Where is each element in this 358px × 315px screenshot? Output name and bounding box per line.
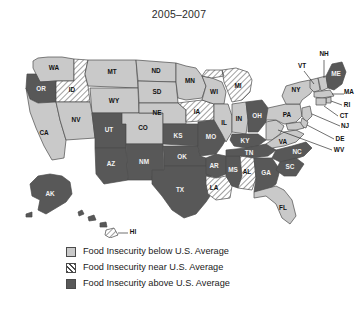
legend-label-above: Food Insecurity above U.S. Average <box>83 279 230 288</box>
state-CT[interactable] <box>316 98 326 105</box>
state-label-NV: NV <box>72 116 82 123</box>
state-RI[interactable] <box>326 97 331 103</box>
legend-swatch-below-icon <box>66 247 76 257</box>
food-insecurity-map-figure: 2005–2007 <box>0 0 358 315</box>
state-label-VA: VA <box>279 138 288 145</box>
leader-line-NJ <box>312 114 340 126</box>
figure-title: 2005–2007 <box>0 8 358 20</box>
state-label-WY: WY <box>109 97 120 104</box>
state-label-CA: CA <box>39 129 49 136</box>
leader-line-RI <box>331 101 342 105</box>
leader-line-CT <box>324 106 338 116</box>
state-label-NJ: NJ <box>341 122 350 129</box>
state-HI[interactable] <box>105 228 118 238</box>
state-label-GA: GA <box>261 169 271 176</box>
legend-item-near: Food Insecurity near U.S. Average <box>66 260 298 276</box>
state-label-WA: WA <box>49 64 60 71</box>
state-AK-aleutians[interactable] <box>26 212 32 217</box>
map-svg: WA OR ID MT WY CA NV UT CO AZ NM ND SD N… <box>0 24 358 238</box>
legend-item-below: Food Insecurity below U.S. Average <box>66 244 298 260</box>
state-label-AR: AR <box>209 162 219 169</box>
state-label-OH: OH <box>252 112 262 119</box>
legend-label-near: Food Insecurity near U.S. Average <box>83 263 223 272</box>
state-label-MN: MN <box>185 77 195 84</box>
state-label-ME: ME <box>331 70 341 77</box>
state-label-ID: ID <box>69 86 76 93</box>
state-HI-islands[interactable] <box>78 210 107 227</box>
state-label-VT: VT <box>298 62 306 69</box>
state-label-NH: NH <box>319 50 329 57</box>
state-label-ND: ND <box>151 67 161 74</box>
state-label-HI: HI <box>130 228 137 235</box>
us-choropleth-map: WA OR ID MT WY CA NV UT CO AZ NM ND SD N… <box>0 24 358 238</box>
state-label-MI: MI <box>234 82 241 89</box>
state-label-MS: MS <box>228 166 238 173</box>
state-label-IL: IL <box>221 119 227 126</box>
legend-label-below: Food Insecurity below U.S. Average <box>83 247 229 256</box>
state-label-MA: MA <box>344 88 354 95</box>
state-label-TN: TN <box>245 149 254 156</box>
state-label-CO: CO <box>138 124 148 131</box>
state-label-NE: NE <box>153 109 163 116</box>
legend: Food Insecurity below U.S. Average Food … <box>66 244 298 292</box>
state-label-KY: KY <box>241 137 251 144</box>
legend-item-above: Food Insecurity above U.S. Average <box>66 276 298 292</box>
state-label-NY: NY <box>292 86 302 93</box>
state-label-OR: OR <box>36 85 46 92</box>
state-label-NM: NM <box>139 158 149 165</box>
state-label-DE: DE <box>336 135 346 142</box>
state-label-AZ: AZ <box>107 160 116 167</box>
state-label-OK: OK <box>177 153 187 160</box>
state-label-SC: SC <box>286 163 295 170</box>
state-label-WV: WV <box>334 146 345 153</box>
leader-line-DE <box>307 125 334 139</box>
state-label-KS: KS <box>174 132 184 139</box>
state-label-LA: LA <box>210 184 219 191</box>
state-label-FL: FL <box>279 204 287 211</box>
state-label-PA: PA <box>283 111 292 118</box>
state-label-MT: MT <box>107 68 116 75</box>
legend-swatch-above-icon <box>66 279 76 289</box>
state-label-WI: WI <box>210 88 218 95</box>
state-label-SD: SD <box>153 88 162 95</box>
state-label-AL: AL <box>243 168 252 175</box>
legend-swatch-near-icon <box>66 263 76 273</box>
state-label-NC: NC <box>292 148 302 155</box>
state-FL[interactable] <box>254 186 296 224</box>
state-label-TX: TX <box>176 186 185 193</box>
state-label-CT: CT <box>340 112 349 119</box>
state-label-IA: IA <box>194 108 201 115</box>
state-label-IN: IN <box>236 115 243 122</box>
state-label-RI: RI <box>344 101 351 108</box>
state-label-MO: MO <box>206 133 216 140</box>
state-label-AK: AK <box>45 190 55 197</box>
state-label-UT: UT <box>105 126 114 133</box>
